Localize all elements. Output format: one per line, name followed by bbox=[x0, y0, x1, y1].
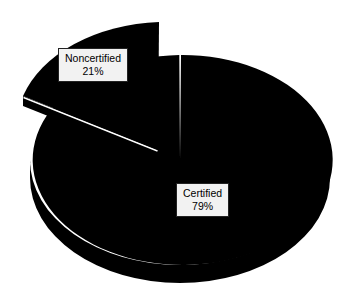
certified-slice-label: Certified 79% bbox=[176, 183, 229, 217]
pie-chart-graphic bbox=[0, 0, 345, 298]
certified-label-name: Certified bbox=[183, 187, 222, 200]
pie-chart: Noncertified 21% Certified 79% bbox=[0, 0, 345, 298]
noncertified-slice-label: Noncertified 21% bbox=[58, 48, 128, 82]
noncertified-label-value: 21% bbox=[65, 65, 121, 78]
certified-label-value: 79% bbox=[183, 200, 222, 213]
noncertified-label-name: Noncertified bbox=[65, 52, 121, 65]
